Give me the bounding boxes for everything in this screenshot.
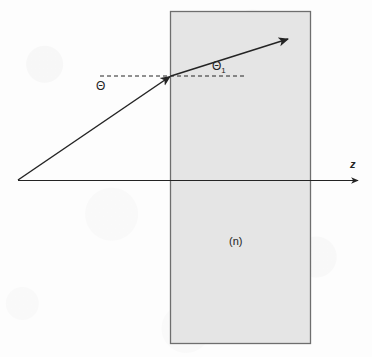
z-axis-label: z bbox=[350, 159, 356, 170]
incident-angle-label: Θ bbox=[96, 80, 105, 92]
ray-diagram-svg bbox=[0, 0, 372, 357]
refractive-index-label: (n) bbox=[229, 236, 242, 247]
refracted-angle-subscript: 1 bbox=[221, 66, 225, 75]
refracted-angle-symbol: Θ bbox=[212, 59, 221, 73]
incident-ray bbox=[18, 77, 170, 181]
figure-canvas: Θ Θ1 z (n) bbox=[0, 0, 372, 357]
refracted-angle-label: Θ1 bbox=[212, 60, 226, 75]
dielectric-slab bbox=[171, 12, 311, 344]
